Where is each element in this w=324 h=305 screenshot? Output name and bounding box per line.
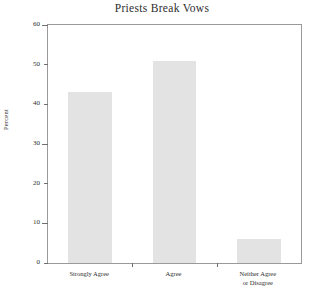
plot-area: 0102030405060 xyxy=(47,24,302,264)
y-tick-label: 60 xyxy=(33,20,40,28)
y-tick-label: 30 xyxy=(33,139,40,147)
bar-chart: Priests Break Vows Percent 0102030405060… xyxy=(0,0,324,305)
bar xyxy=(68,92,112,263)
x-tick-label: Strongly Agree xyxy=(69,270,109,279)
y-tick-mark xyxy=(44,104,48,105)
y-tick-label: 40 xyxy=(33,99,40,107)
y-tick-mark xyxy=(44,263,48,264)
chart-title: Priests Break Vows xyxy=(0,2,324,14)
x-tick-label: Agree xyxy=(166,270,182,279)
x-tick-label-line: or Disagree xyxy=(240,279,277,288)
y-tick-mark xyxy=(42,223,48,224)
y-tick-label: 50 xyxy=(33,60,40,68)
y-tick-label: 10 xyxy=(33,218,40,226)
y-axis-label: Percent xyxy=(2,109,9,130)
bar xyxy=(153,61,197,263)
y-tick-mark xyxy=(42,144,48,145)
x-tick-label-line: Neither Agree xyxy=(240,270,277,279)
y-tick-mark xyxy=(44,183,48,184)
x-tick-label-line: Strongly Agree xyxy=(69,270,109,279)
y-tick-label: 0 xyxy=(37,258,41,266)
bar xyxy=(237,239,281,263)
x-tick-label-line: Agree xyxy=(166,270,182,279)
y-tick-label: 20 xyxy=(33,179,40,187)
x-tick-mark xyxy=(217,263,218,267)
x-tick-label: Neither Agreeor Disagree xyxy=(240,270,277,287)
y-tick-mark xyxy=(44,64,48,65)
x-tick-mark xyxy=(132,263,133,267)
y-tick-mark xyxy=(42,25,48,26)
